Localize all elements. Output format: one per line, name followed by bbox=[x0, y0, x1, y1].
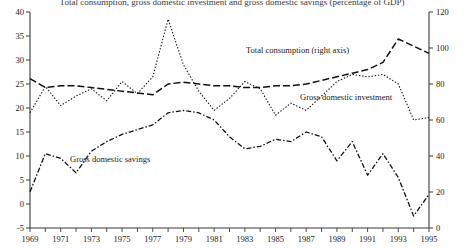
chart-title: Total consumption, gross domestic invest… bbox=[60, 0, 405, 7]
x-axis-tick-label: 1995 bbox=[421, 234, 438, 244]
left-axis-tick-label: 40 bbox=[16, 7, 25, 17]
left-axis-tick-label: 30 bbox=[16, 55, 25, 65]
x-axis-tick-label: 1975 bbox=[114, 234, 131, 244]
x-axis-tick-label: 1977 bbox=[144, 234, 161, 244]
x-axis-tick-label: 1993 bbox=[390, 234, 407, 244]
line-chart: Total consumption, gross domestic invest… bbox=[0, 0, 464, 248]
x-axis-tick-label: 1971 bbox=[52, 234, 69, 244]
series-label-gross-domestic-investment: Gross domestic investment bbox=[300, 92, 393, 102]
right-axis-tick-label: 40 bbox=[436, 151, 445, 161]
left-axis-tick-label: 20 bbox=[16, 103, 25, 113]
right-axis-tick-label: 20 bbox=[436, 187, 445, 197]
left-axis-tick-label: 35 bbox=[16, 31, 25, 41]
right-axis-tick-label: 80 bbox=[436, 79, 445, 89]
x-axis-tick-label: 1983 bbox=[236, 234, 253, 244]
right-axis-tick-label: 100 bbox=[436, 43, 449, 53]
chart-title-group: Total consumption, gross domestic invest… bbox=[60, 0, 405, 7]
series-label-total-consumption: Total consumption (right axis) bbox=[246, 45, 349, 55]
left-axis-tick-label: 0 bbox=[20, 199, 24, 209]
right-axis-tick-label: 0 bbox=[436, 223, 440, 233]
x-axis-tick-label: 1987 bbox=[298, 234, 315, 244]
left-axis-tick-label: 5 bbox=[20, 175, 24, 185]
bottom-axis: 1969197119731975197719791981198319851987… bbox=[22, 228, 438, 244]
left-axis-tick-label: 10 bbox=[16, 151, 25, 161]
series-label-gross-domestic-savings: Gross domestic savings bbox=[70, 154, 150, 164]
x-axis-tick-label: 1989 bbox=[328, 234, 345, 244]
x-axis-tick-label: 1973 bbox=[83, 234, 100, 244]
chart-figure: Total consumption, gross domestic invest… bbox=[0, 0, 464, 248]
x-axis-tick-label: 1985 bbox=[267, 234, 284, 244]
series-line-total-consumption bbox=[30, 39, 429, 95]
left-axis: 4035302520151050-5 bbox=[16, 7, 31, 233]
left-axis-tick-label: -5 bbox=[17, 223, 24, 233]
left-axis-tick-label: 15 bbox=[16, 127, 25, 137]
right-axis-tick-label: 120 bbox=[436, 7, 449, 17]
right-axis-tick-label: 60 bbox=[436, 115, 445, 125]
x-axis-tick-label: 1991 bbox=[359, 234, 376, 244]
series-line-gross-domestic-investment bbox=[30, 19, 429, 120]
left-axis-tick-label: 25 bbox=[16, 79, 25, 89]
right-axis: 120100806040200 bbox=[429, 7, 449, 233]
x-axis-tick-label: 1979 bbox=[175, 234, 192, 244]
x-axis-tick-label: 1969 bbox=[22, 234, 39, 244]
x-axis-tick-label: 1981 bbox=[206, 234, 223, 244]
